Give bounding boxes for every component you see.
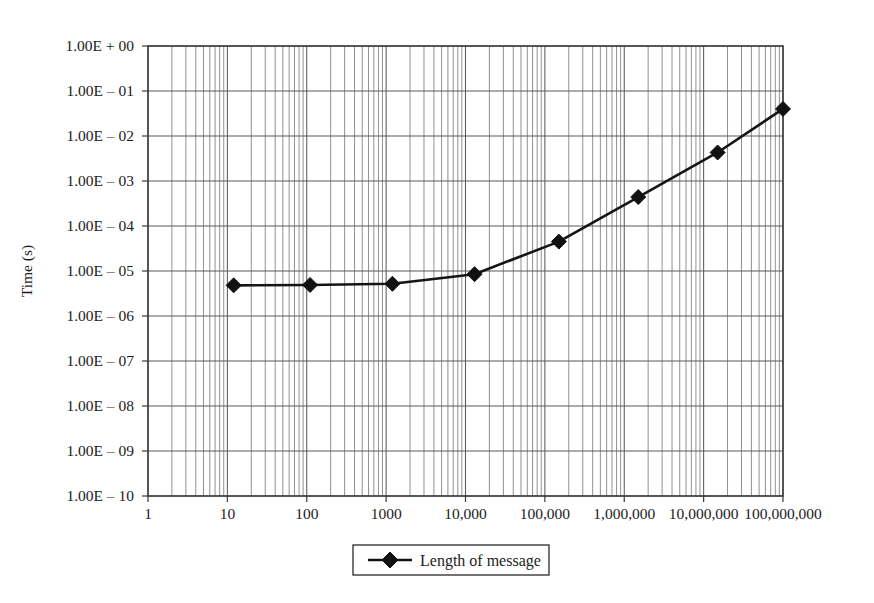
x-axis-tick-label: 10 [220, 505, 236, 522]
x-axis-tick-label: 10,000,000 [669, 505, 739, 522]
y-axis-tick-label: 1.00E – 08 [66, 397, 134, 414]
y-axis-tick-label: 1.00E – 01 [66, 82, 134, 99]
legend-label-length-of-message: Length of message [420, 552, 541, 570]
y-axis-tick-label: 1.00E – 04 [66, 217, 134, 234]
y-axis-tick-label: 1.00E – 03 [66, 172, 134, 189]
y-axis-tick-label: 1.00E – 05 [66, 262, 134, 279]
x-axis-tick-label: 10,000 [444, 505, 487, 522]
chart-legend: Length of message [353, 545, 549, 575]
x-axis-tick-label: 1 [144, 505, 152, 522]
x-axis-tick-label: 1000 [371, 505, 402, 522]
y-axis-tick-label: 1.00E – 09 [66, 442, 134, 459]
chart-figure: 1.00E + 001.00E – 011.00E – 021.00E – 03… [0, 0, 874, 603]
x-axis-tick-label: 100 [295, 505, 319, 522]
x-axis-tick-label: 100,000 [520, 505, 571, 522]
log-log-line-chart: 1.00E + 001.00E – 011.00E – 021.00E – 03… [0, 0, 874, 603]
y-axis-tick-label: 1.00E – 10 [66, 487, 134, 504]
y-axis-tick-label: 1.00E + 00 [65, 37, 134, 54]
x-axis-tick-label: 1,000,000 [593, 505, 655, 522]
y-axis-tick-label: 1.00E – 02 [66, 127, 134, 144]
y-axis-tick-label: 1.00E – 07 [66, 352, 134, 369]
y-axis-tick-label: 1.00E – 06 [66, 307, 134, 324]
x-axis-tick-label: 100,000,000 [744, 505, 822, 522]
y-axis-title: Time (s) [18, 245, 36, 297]
